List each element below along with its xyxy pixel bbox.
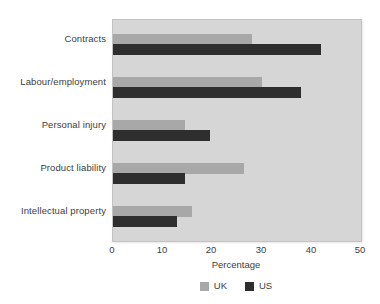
bar-chart: Contracts Labour/employment Personal inj…: [0, 0, 380, 304]
category-axis-labels: Contracts Labour/employment Personal inj…: [0, 19, 106, 240]
category-label-contracts: Contracts: [0, 33, 106, 44]
category-label-labour-employment: Labour/employment: [0, 76, 106, 87]
category-label-intellectual-property: Intellectual property: [0, 205, 106, 216]
bar-us-intellectual-property: [113, 216, 177, 227]
bar-us-personal-injury: [113, 130, 210, 141]
legend-item-uk: UK: [200, 281, 227, 291]
bar-us-labour-employment: [113, 87, 301, 98]
x-tick-20: 20: [206, 244, 217, 255]
legend-label-us: US: [259, 281, 272, 291]
legend-swatch-us-icon: [245, 282, 254, 291]
legend-label-uk: UK: [214, 281, 227, 291]
category-label-product-liability: Product liability: [0, 162, 106, 173]
category-label-personal-injury: Personal injury: [0, 119, 106, 130]
x-tick-40: 40: [306, 244, 317, 255]
legend-swatch-uk-icon: [200, 282, 209, 291]
bar-us-contracts: [113, 44, 321, 55]
bars-container: [113, 20, 361, 241]
legend: UK US: [112, 281, 360, 291]
x-tick-10: 10: [157, 244, 168, 255]
legend-item-us: US: [245, 281, 272, 291]
x-tick-0: 0: [109, 244, 114, 255]
x-axis-title: Percentage: [112, 259, 360, 270]
plot-area: [112, 19, 362, 242]
x-tick-30: 30: [256, 244, 267, 255]
x-axis-line: [112, 241, 361, 242]
x-tick-50: 50: [355, 244, 366, 255]
bar-us-product-liability: [113, 173, 185, 184]
